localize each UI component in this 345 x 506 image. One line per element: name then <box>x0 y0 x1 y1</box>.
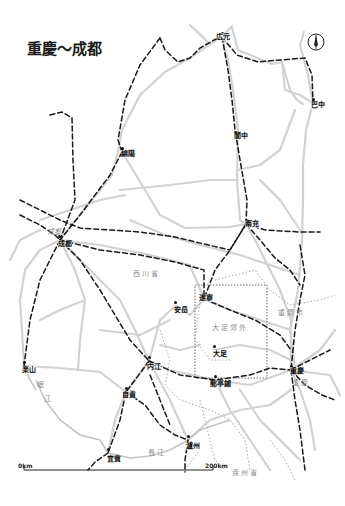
region-label-changjiang: 長江 <box>148 449 166 457</box>
city-label-chengdu: 成都 <box>58 240 72 248</box>
city-marker-icon <box>125 387 128 390</box>
map-title: 重慶〜成都 <box>27 37 102 58</box>
city-label-yibin: 宜賓 <box>107 455 121 463</box>
city-label-zigong: 自貢 <box>122 391 136 399</box>
city-marker-icon <box>148 356 151 359</box>
region-label-sichuan: 西川省 <box>133 270 160 278</box>
city-marker-icon <box>23 361 26 364</box>
city-label-langzhong: 閬中 <box>234 132 248 140</box>
region-label-dazu-suburb: 大足郊外 <box>212 324 248 332</box>
city-marker-icon <box>214 375 217 378</box>
city-marker-icon <box>107 448 110 451</box>
scale-end-label: 200km <box>205 462 228 469</box>
north-arrow-icon <box>308 34 324 50</box>
scale-start-label: 0km <box>18 462 32 469</box>
area-label-chengdu-area: 成都 <box>48 228 62 236</box>
city-label-anyue: 安岳 <box>174 306 188 314</box>
city-label-nanchong: 南充 <box>245 220 259 228</box>
city-label-suining: 遂寧 <box>199 294 213 302</box>
city-label-luzhou: 瀘州 <box>186 442 200 450</box>
city-label-guangyuan: 広元 <box>216 33 230 41</box>
route-map <box>0 0 345 506</box>
city-label-dazu: 大足 <box>213 350 227 358</box>
region-label-chongqing-city: 重慶市 <box>278 309 305 317</box>
city-marker-icon <box>213 345 216 348</box>
city-label-mianyang: 綿陽 <box>121 150 135 158</box>
region-label-chongqing-area: 重慶 <box>292 379 310 387</box>
city-label-chongqing: 重慶 <box>290 367 304 375</box>
city-label-neijiang: 内江 <box>147 363 161 371</box>
city-label-youtingpu: 郵亭鋪 <box>210 380 231 388</box>
region-label-minjiang-2: 江 <box>44 395 53 403</box>
region-label-minjiang-1: 岷 <box>37 381 46 389</box>
region-label-guizhou: 貴州省 <box>232 469 259 477</box>
city-marker-icon <box>174 301 177 304</box>
city-label-leshan: 楽山 <box>22 366 36 374</box>
city-marker-icon <box>187 435 190 438</box>
city-label-bazhong: 巴中 <box>311 101 325 109</box>
